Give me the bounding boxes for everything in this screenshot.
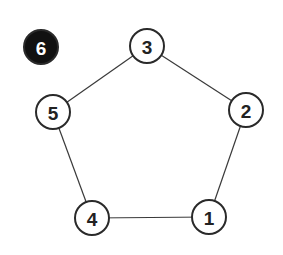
graph-diagram: 123456 [0,0,283,255]
edges-layer [53,46,246,218]
node-1: 1 [192,200,226,234]
node-label: 2 [241,101,252,122]
node-label: 5 [48,103,59,124]
node-6: 6 [24,30,58,64]
node-label: 6 [36,38,47,59]
node-label: 3 [142,37,153,58]
node-4: 4 [75,201,109,235]
node-label: 1 [204,208,215,229]
node-label: 4 [87,209,98,230]
node-2: 2 [229,93,263,127]
node-5: 5 [36,95,70,129]
node-3: 3 [130,29,164,63]
